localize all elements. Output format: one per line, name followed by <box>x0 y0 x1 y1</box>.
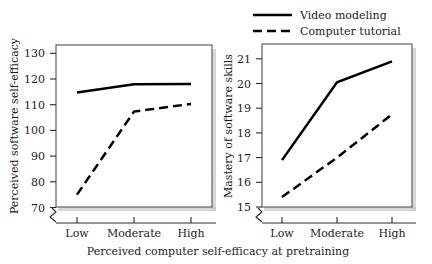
panel-left-y-axis-title: Perceived software self-efficacy <box>8 37 21 214</box>
y-tick-label-110: 110 <box>24 99 45 112</box>
panel-right-y-axis-title: Mastery of software skills <box>222 54 235 198</box>
x-category-label-low: Low <box>270 227 294 240</box>
panel-right-frame-shadow-bottom <box>264 207 416 211</box>
x-category-label-low: Low <box>65 227 89 240</box>
panel-right-mastery-of-software-skills: 21 20 19 18 17 16 15 Low Moderate High M… <box>222 44 416 240</box>
panel-left-perceived-software-self-efficacy: 130 120 110 100 90 80 70 Low Moderate <box>8 37 216 240</box>
panel-left-axis-break-icon <box>50 208 56 222</box>
y-tick-label-17: 17 <box>237 152 251 165</box>
legend-label-video-modeling: Video modeling <box>299 9 387 22</box>
y-tick-label-19: 19 <box>237 102 251 115</box>
y-tick-label-120: 120 <box>24 73 45 86</box>
panel-left-plot-frame <box>56 45 212 207</box>
x-category-label-moderate: Moderate <box>107 227 161 240</box>
y-tick-label-15: 15 <box>237 201 251 214</box>
two-panel-line-chart-figure: Video modeling Computer tutorial 130 120… <box>0 0 432 264</box>
y-tick-label-21: 21 <box>237 53 251 66</box>
y-tick-label-18: 18 <box>237 127 251 140</box>
panel-right-axis-break-icon <box>256 208 262 222</box>
panel-left-x-axis-ticks <box>77 217 191 223</box>
panel-left-series-computer-tutorial <box>77 104 191 195</box>
panel-right-frame-shadow-right <box>412 48 416 211</box>
panel-right-plot-frame <box>262 44 412 207</box>
x-category-label-moderate: Moderate <box>310 227 364 240</box>
panel-right-y-axis: 21 20 19 18 17 16 15 <box>237 53 262 214</box>
y-tick-label-130: 130 <box>24 47 45 60</box>
panel-left-series-video-modeling <box>77 84 191 93</box>
panel-right-x-axis-ticks <box>282 217 392 223</box>
panel-left-frame-shadow-bottom <box>58 207 216 211</box>
y-tick-label-90: 90 <box>31 150 45 163</box>
y-tick-label-16: 16 <box>237 176 251 189</box>
x-category-label-high: High <box>378 227 405 240</box>
panel-right-series-computer-tutorial <box>282 114 392 197</box>
y-tick-label-100: 100 <box>24 124 45 137</box>
panel-right-series-video-modeling <box>282 61 392 160</box>
x-category-label-high: High <box>177 227 204 240</box>
y-tick-label-80: 80 <box>31 176 45 189</box>
panel-left-frame-shadow-right <box>212 49 216 211</box>
y-tick-label-20: 20 <box>237 78 251 91</box>
y-tick-label-70: 70 <box>31 202 45 215</box>
panel-left-y-axis: 130 120 110 100 90 80 70 <box>24 47 56 214</box>
legend: Video modeling Computer tutorial <box>253 9 401 38</box>
legend-label-computer-tutorial: Computer tutorial <box>300 25 401 38</box>
shared-x-axis-title: Perceived computer self-efficacy at pret… <box>87 245 349 258</box>
